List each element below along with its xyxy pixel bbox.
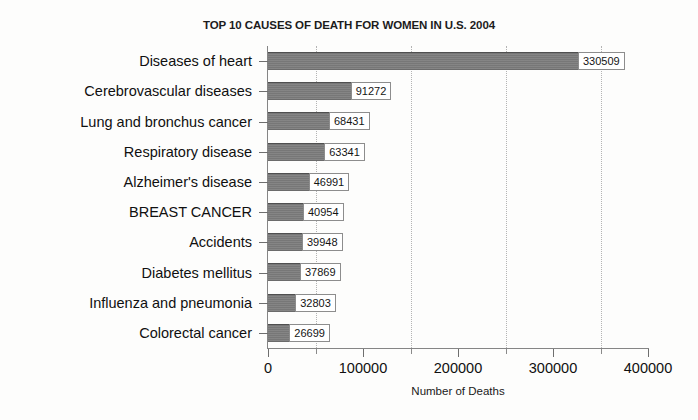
bar-value-label: 26699 xyxy=(289,324,330,342)
bar-row: 68431 xyxy=(268,106,648,136)
bar-row: 330509 xyxy=(268,46,648,76)
category-label: Alzheimer's disease xyxy=(124,173,253,191)
x-axis-title: Number of Deaths xyxy=(268,385,648,397)
x-axis-tick-major xyxy=(363,349,364,357)
bar-row: 63341 xyxy=(268,137,648,167)
category-label: Cerebrovascular diseases xyxy=(84,82,252,100)
x-axis-tick-minor xyxy=(316,349,317,354)
x-axis-tick-major xyxy=(268,349,269,357)
x-axis-tick-major xyxy=(553,349,554,357)
bar xyxy=(268,82,355,100)
bar xyxy=(268,173,313,191)
x-axis-tick-minor xyxy=(411,349,412,354)
bar-row: 26699 xyxy=(268,318,648,348)
category-label: Influenza and pneumonia xyxy=(89,294,252,312)
bar-row: 37869 xyxy=(268,257,648,287)
y-axis-tick xyxy=(259,91,268,92)
bar xyxy=(268,52,582,70)
bar-value-label: 40954 xyxy=(303,203,344,221)
category-label: BREAST CANCER xyxy=(129,203,252,221)
chart-title: TOP 10 CAUSES OF DEATH FOR WOMEN IN U.S.… xyxy=(0,19,698,31)
x-axis-tick-label: 0 xyxy=(264,360,272,376)
category-label: Diabetes mellitus xyxy=(142,264,252,282)
bar-value-label: 68431 xyxy=(329,112,370,130)
y-axis-tick xyxy=(259,273,268,274)
bar-row: 32803 xyxy=(268,288,648,318)
x-axis-tick-label: 400000 xyxy=(624,360,672,376)
bar-value-label: 330509 xyxy=(578,52,625,70)
bar xyxy=(268,143,328,161)
x-axis-tick-major xyxy=(648,349,649,357)
bar-row: 40954 xyxy=(268,197,648,227)
bar xyxy=(268,203,307,221)
bar-chart: TOP 10 CAUSES OF DEATH FOR WOMEN IN U.S.… xyxy=(0,0,698,420)
y-axis-tick xyxy=(259,61,268,62)
bar-value-label: 46991 xyxy=(309,173,350,191)
y-axis-tick xyxy=(259,152,268,153)
bar-value-label: 39948 xyxy=(302,233,343,251)
y-axis-tick xyxy=(259,333,268,334)
y-axis-tick xyxy=(259,303,268,304)
x-axis-tick-minor xyxy=(506,349,507,354)
bar xyxy=(268,112,333,130)
y-axis-tick xyxy=(259,182,268,183)
x-axis-tick-minor xyxy=(601,349,602,354)
bar-row: 91272 xyxy=(268,76,648,106)
bar-value-label: 63341 xyxy=(324,143,365,161)
category-label: Colorectal cancer xyxy=(139,324,252,342)
bar-row: 46991 xyxy=(268,167,648,197)
bar-row: 39948 xyxy=(268,227,648,257)
plot-area: 3305099127268431633414699140954399483786… xyxy=(268,46,648,348)
x-axis-tick-label: 300000 xyxy=(529,360,577,376)
y-axis-tick xyxy=(259,242,268,243)
bar-value-label: 32803 xyxy=(295,294,336,312)
category-axis-labels: Diseases of heartCerebrovascular disease… xyxy=(0,46,252,348)
x-axis-tick-label: 200000 xyxy=(434,360,482,376)
bar xyxy=(268,263,304,281)
category-label: Lung and bronchus cancer xyxy=(80,113,252,131)
category-label: Respiratory disease xyxy=(124,143,252,161)
y-axis-tick xyxy=(259,122,268,123)
bar-value-label: 91272 xyxy=(351,82,392,100)
category-label: Diseases of heart xyxy=(139,52,252,70)
x-axis-tick-major xyxy=(458,349,459,357)
bar xyxy=(268,233,306,251)
x-axis-tick-label: 100000 xyxy=(339,360,387,376)
bar-value-label: 37869 xyxy=(300,263,341,281)
category-label: Accidents xyxy=(189,233,252,251)
y-axis-tick xyxy=(259,212,268,213)
